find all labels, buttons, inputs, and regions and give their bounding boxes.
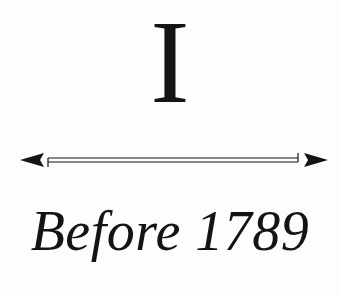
part-numeral-heading: I (0, 4, 340, 122)
part-subtitle: Before 1789 (0, 196, 340, 266)
double-arrow-icon (18, 148, 330, 172)
